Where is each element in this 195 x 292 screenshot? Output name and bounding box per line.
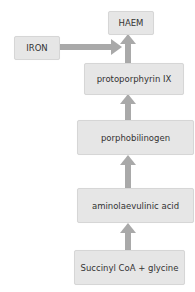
node-iron: IRON xyxy=(14,36,60,60)
node-aminolaevulinic-acid: aminolaevulinic acid xyxy=(77,188,194,223)
arrow-ala-to-porphobilinogen xyxy=(120,155,136,188)
arrow-protoporphyrin-to-haem xyxy=(120,34,136,63)
node-label: aminolaevulinic acid xyxy=(92,201,179,211)
arrow-succinyl-to-ala xyxy=(120,223,136,250)
node-label: protoporphyrin IX xyxy=(97,74,172,84)
node-porphobilinogen: porphobilinogen xyxy=(77,120,194,155)
arrow-iron-to-haem xyxy=(59,39,122,55)
node-label: HAEM xyxy=(119,18,144,28)
node-protoporphyrin: protoporphyrin IX xyxy=(84,63,184,95)
node-succinyl-coa-glycine: Succinyl CoA + glycine xyxy=(74,250,185,285)
node-label: porphobilinogen xyxy=(101,133,170,143)
node-label: Succinyl CoA + glycine xyxy=(81,263,179,273)
node-haem: HAEM xyxy=(108,11,154,35)
arrow-porphobilinogen-to-protoporphyrin xyxy=(120,94,136,120)
node-label: IRON xyxy=(26,43,47,53)
